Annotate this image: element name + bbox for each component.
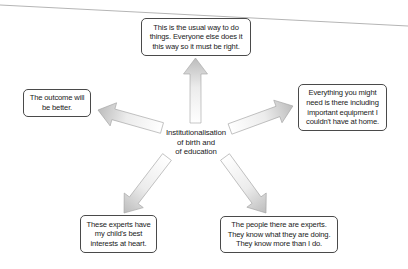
node-text-line: The outcome will [30,93,85,103]
node-text-line: important equipment I [306,108,379,118]
arrow-icon-up [184,58,208,123]
node-text-line: this way so it must be right. [150,42,243,52]
node-text-line: They know more than I do. [228,239,331,249]
node-text-line: interests at heart. [87,239,151,249]
node-text-line: couldn't have at home. [306,117,379,127]
center-label: Institutionalisation of birth and of edu… [150,128,242,157]
node-text-line: my child's best [87,229,151,239]
arrow-icon-bottom-right [215,150,275,220]
node-text-line: They know what they are doing. [228,230,331,240]
node-right: Everything you might need is there inclu… [298,84,387,131]
node-text-line: The people there are experts. [228,220,331,230]
arrow-icon-bottom-left [115,150,177,221]
node-text-line: things. Everyone else does it [150,32,243,42]
node-text-line: This is the usual way to do [150,23,243,33]
node-text-line: need is there including [306,98,379,108]
center-label-line: of education [150,147,242,157]
node-top: This is the usual way to do things. Ever… [141,18,251,56]
center-label-line: Institutionalisation [150,128,242,138]
node-bottom-right: The people there are experts. They know … [220,216,338,253]
center-label-line: of birth and [150,138,242,148]
node-bottom-left: These experts have my child's best inter… [80,215,157,253]
node-text-line: These experts have [87,220,151,230]
node-text-line: be better. [30,103,85,113]
node-text-line: Everything you might [306,88,379,98]
diagram-canvas: Institutionalisation of birth and of edu… [0,0,408,269]
node-left: The outcome will be better. [23,89,91,117]
